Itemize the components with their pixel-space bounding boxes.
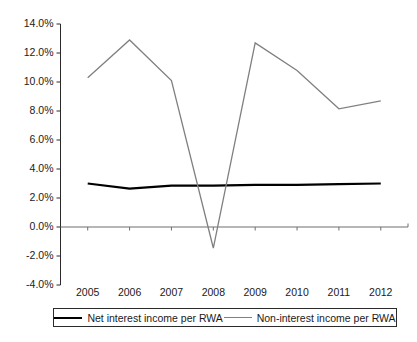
chart-legend: Net interest income per RWANon-interest … [53, 308, 397, 327]
legend-line-swatch-0 [54, 317, 82, 319]
y-axis-label-3: 8.0% [30, 105, 54, 116]
y-axis-label-6: 2.0% [30, 192, 54, 203]
x-axis-label-7: 2012 [356, 287, 406, 298]
chart-figure: 14.0%12.0%10.0%8.0%6.0%4.0%2.0%0.0%-2.0%… [0, 0, 417, 342]
y-axis-label-7: 0.0% [30, 221, 54, 232]
y-axis-label-1: 12.0% [24, 47, 54, 58]
y-axis-label-0: 14.0% [24, 18, 54, 29]
legend-line-swatch-1 [224, 317, 252, 318]
series-line-0 [88, 184, 381, 189]
legend-entry-0: Net interest income per RWA [54, 312, 222, 324]
y-axis-label-9: -4.0% [26, 279, 53, 290]
y-axis-label-4: 6.0% [30, 134, 54, 145]
y-axis-label-2: 10.0% [24, 76, 54, 87]
legend-entry-1: Non-interest income per RWA [224, 312, 396, 324]
y-axis-label-8: -2.0% [26, 250, 53, 261]
series-layer [88, 40, 381, 248]
legend-label-0: Net interest income per RWA [87, 312, 222, 324]
series-line-1 [88, 40, 381, 248]
y-axis-label-5: 4.0% [30, 163, 54, 174]
legend-label-1: Non-interest income per RWA [257, 312, 396, 324]
